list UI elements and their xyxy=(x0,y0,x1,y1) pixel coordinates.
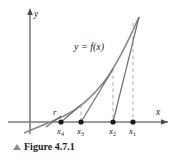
function-curve xyxy=(24,17,139,133)
point-x3 xyxy=(78,119,83,124)
point-x2 xyxy=(110,119,115,124)
figure-caption: Figure 4.7.1 xyxy=(0,140,185,165)
function-label: y = f(x) xyxy=(73,41,105,53)
tick-label-x1-sub: 1 xyxy=(133,131,136,137)
point-x4 xyxy=(58,119,63,124)
tangent-line-at-x1 xyxy=(113,17,139,122)
y-axis-arrow-icon xyxy=(27,8,33,15)
figure-caption-text: Figure 4.7.1 xyxy=(24,140,75,153)
tick-label-x4: x4 xyxy=(56,126,64,137)
tangent-line-at-x2 xyxy=(81,69,113,122)
triangle-up-icon xyxy=(13,144,21,150)
point-x1 xyxy=(130,119,135,124)
diagram-canvas: y x y = f(x) r x1 x2 x3 x4 xyxy=(0,0,185,140)
tick-label-x2: x2 xyxy=(108,126,116,137)
tick-label-x4-sub: 4 xyxy=(61,131,64,137)
tangent-line-at-x3 xyxy=(61,105,81,122)
figure-container: y x y = f(x) r x1 x2 x3 x4 Figure 4.7.1 xyxy=(0,0,185,165)
root-label: r xyxy=(53,107,57,117)
x-axis-arrow-icon xyxy=(161,119,168,125)
tick-label-x3-sub: 3 xyxy=(81,131,84,137)
x-axis-label: x xyxy=(155,107,161,117)
tick-label-x3: x3 xyxy=(76,126,84,137)
newtons-method-diagram: y x y = f(x) r x1 x2 x3 x4 xyxy=(0,0,185,140)
tick-label-x2-sub: 2 xyxy=(113,131,116,137)
tick-label-x1: x1 xyxy=(128,126,136,137)
y-axis-label: y xyxy=(33,9,39,19)
